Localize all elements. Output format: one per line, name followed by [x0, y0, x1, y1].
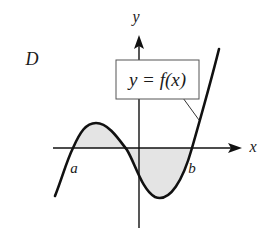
label-leader-line: [183, 98, 199, 120]
panel-label: D: [25, 49, 39, 69]
y-axis-label: y: [130, 8, 140, 26]
function-label: y = f(x): [127, 69, 186, 91]
point-b-label: b: [188, 160, 196, 176]
point-a-label: a: [70, 160, 78, 176]
area-diagram: y = f(x) y x D a b: [0, 0, 270, 245]
x-axis-label: x: [248, 138, 256, 155]
